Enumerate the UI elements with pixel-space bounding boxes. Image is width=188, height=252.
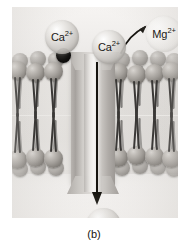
calcium-influx-arrow (91, 62, 103, 205)
lipid-tail (153, 110, 157, 150)
ion-calcium-at-pore: Ca2+ (92, 30, 126, 64)
lipid-head-icon (44, 149, 63, 168)
lipid-molecule (162, 110, 178, 168)
figure-caption: (b) (0, 228, 188, 240)
ion-label: Ca2+ (51, 32, 73, 43)
lipid-head-icon (127, 146, 146, 165)
lipid-molecule (26, 109, 45, 167)
ion-label: Ca2+ (98, 42, 120, 53)
lipid-head-icon (162, 149, 178, 168)
lipid-tail (52, 112, 56, 152)
arrow-head-icon (92, 192, 102, 205)
ion-label: Mg2+ (152, 29, 175, 40)
lipid-molecule (12, 111, 27, 169)
figure-root: Ca2+ Ca2+ Mg2+ Ca2+ (b) (0, 0, 188, 252)
lipid-tail (34, 111, 38, 151)
lipid-head-icon (26, 63, 45, 82)
lipid-tail (170, 112, 174, 152)
lipid-molecule (127, 107, 146, 165)
ion-magnesium-displaced: Mg2+ (146, 16, 178, 52)
membrane-channel-illustration: Ca2+ Ca2+ Mg2+ Ca2+ (12, 7, 178, 218)
lipid-head-icon (162, 62, 178, 81)
lipid-tail (16, 113, 20, 153)
arrow-shaft (96, 62, 98, 195)
lipid-tail (135, 109, 139, 149)
ion-calcium-extracellular-left: Ca2+ (45, 20, 79, 54)
lipid-head-icon (127, 65, 146, 84)
lipid-molecule (44, 110, 63, 168)
lipid-head-icon (44, 62, 63, 81)
lipid-head-icon (26, 148, 45, 167)
